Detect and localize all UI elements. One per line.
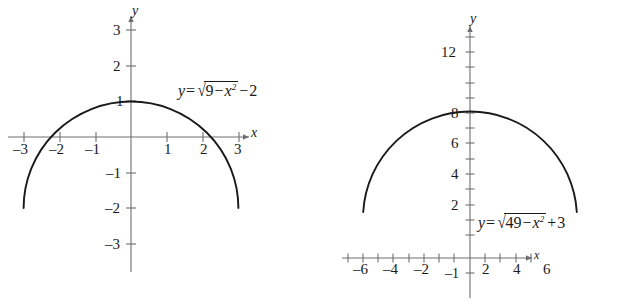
right-eq-equals: = [485,214,496,231]
left-eq-tail-op: − [238,82,249,99]
right-y-axis [466,26,475,298]
left-x-tick-label-neg1: –1 [85,142,100,157]
left-eq-equals: = [185,82,196,99]
right-y-tick-label-8: 8 [451,106,459,121]
right-eq-tail-op: + [546,214,557,231]
right-eq-exponent: 2 [540,214,545,224]
right-equation-annotation: y=√49−x2+3 [478,213,565,233]
left-y-axis-label: y [132,4,138,18]
right-y-axis-arrow [467,26,472,32]
right-x-axis-label: x [534,249,539,261]
left-y-tick-label-neg2: –2 [105,201,120,216]
right-eq-inner-minus: − [521,214,532,231]
left-eq-inner-minus: − [213,82,224,99]
left-y-tick-label-2: 2 [113,59,121,74]
left-x-axis-label: x [251,126,257,140]
chart-panel-left: 3 2 1 –1 –2 –3 –3 –2 –1 1 2 3 x y y=√9−x… [0,0,320,304]
right-y-tick-label-6: 6 [451,136,459,151]
left-chart-svg [0,0,320,304]
right-x-tick-label-neg1: –1 [445,267,459,281]
right-x-tick-label-neg2: –2 [414,262,429,277]
left-x-tick-label-2: 2 [200,142,208,157]
right-y-tick-label-4: 4 [451,167,459,182]
left-x-tick-label-1: 1 [164,142,172,157]
left-x-tick-label-neg2: –2 [49,142,64,157]
right-eq-radical: √49−x2 [496,213,546,233]
left-y-axis [126,16,136,272]
left-eq-exponent: 2 [232,82,237,92]
right-y-tick-label-2: 2 [451,198,459,213]
right-eq-tail-num: 3 [557,214,565,231]
right-x-tick-label-2: 2 [482,262,490,277]
left-y-tick-label-3: 3 [113,23,121,38]
right-y-tick-label-12: 12 [441,45,456,60]
right-y-axis-label: y [470,12,476,26]
left-eq-tail-num: 2 [249,82,257,99]
left-equation-annotation: y=√9−x2−2 [178,81,257,101]
left-x-axis-arrow [243,134,249,139]
right-x-axis [342,254,532,263]
two-panel-graph-figure: 3 2 1 –1 –2 –3 –3 –2 –1 1 2 3 x y y=√9−x… [0,0,640,304]
chart-panel-right: 12 8 6 4 2 –6 –4 –2 –1 2 4 6 x y y=√49−x… [320,0,640,304]
left-y-tick-label-neg1: –1 [106,166,121,181]
sqrt-icon: √ [198,81,206,101]
left-y-tick-label-neg3: –3 [105,237,120,252]
left-eq-var: x [225,82,232,99]
left-y-tick-label-1: 1 [116,94,124,109]
right-eq-radicand: 49 [505,214,521,231]
right-chart-svg [320,0,640,304]
right-x-tick-label-neg6: –6 [353,262,368,277]
right-x-tick-label-4: 4 [513,262,521,277]
right-x-tick-label-6: 6 [543,262,551,277]
right-eq-var: x [533,214,540,231]
right-x-tick-label-neg4: –4 [383,262,398,277]
left-x-tick-label-neg3: –3 [13,142,28,157]
left-x-tick-label-3: 3 [234,142,242,157]
left-eq-radical: √9−x2 [196,81,238,101]
sqrt-icon: √ [498,213,506,233]
